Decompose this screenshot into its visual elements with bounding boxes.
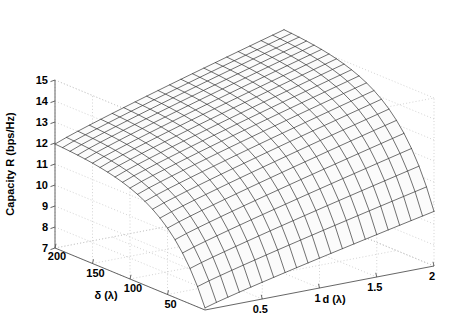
z-tick-15: 15 <box>36 74 48 86</box>
delta-tick-100: 100 <box>124 282 142 294</box>
surface-plot-3d: 789101112131415200150100500.511.52Capaci… <box>0 0 456 336</box>
z-axis-title: Capacity R (bps/Hz) <box>4 112 16 216</box>
delta-tick-200: 200 <box>48 250 66 262</box>
surface-mesh <box>55 30 434 308</box>
z-tick-11: 11 <box>36 158 48 170</box>
figure-container: 789101112131415200150100500.511.52Capaci… <box>0 0 456 336</box>
d-tick-2: 2 <box>429 270 435 282</box>
d-tick-1.5: 1.5 <box>367 281 382 293</box>
delta-tick-50: 50 <box>164 298 176 310</box>
z-tick-12: 12 <box>36 137 48 149</box>
d-tick-1: 1 <box>314 292 320 304</box>
delta-axis-title: δ (λ) <box>94 289 118 301</box>
z-tick-10: 10 <box>36 179 48 191</box>
d-axis-title: d (λ) <box>322 293 346 305</box>
z-tick-14: 14 <box>36 95 49 107</box>
z-tick-9: 9 <box>42 200 48 212</box>
delta-tick-150: 150 <box>86 267 104 279</box>
d-tick-0.5: 0.5 <box>253 303 268 315</box>
z-tick-13: 13 <box>36 116 48 128</box>
z-tick-8: 8 <box>42 221 48 233</box>
